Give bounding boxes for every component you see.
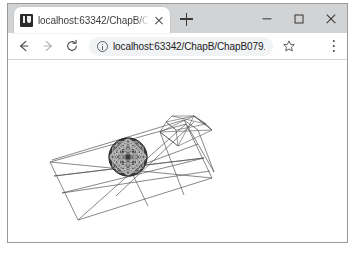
browser-window: localhost:63342/ChapB/ChapB [7, 3, 348, 243]
tab-strip: localhost:63342/ChapB/ChapB [8, 4, 347, 33]
forward-arrow-icon [41, 39, 56, 54]
webgl-canvas[interactable] [8, 60, 347, 242]
maximize-icon [295, 14, 304, 23]
three-dot-menu-icon-dot1 [333, 40, 335, 42]
back-button[interactable] [13, 35, 35, 57]
wireframe-box-structure [160, 116, 212, 146]
browser-toolbar: localhost:63342/ChapB/ChapB079.ht... [8, 33, 347, 60]
star-icon [283, 40, 296, 53]
close-icon[interactable] [151, 13, 166, 28]
page-viewport[interactable] [8, 60, 347, 242]
url-text: localhost:63342/ChapB/ChapB079.ht... [113, 41, 265, 52]
info-circle-icon[interactable] [97, 41, 108, 52]
mesh-sphere [102, 131, 155, 184]
profile-button[interactable] [302, 35, 324, 57]
minimize-button[interactable] [251, 4, 283, 33]
close-window-button[interactable] [315, 4, 347, 33]
3d-wireframe-scene [50, 116, 214, 220]
back-arrow-icon [17, 39, 32, 54]
browser-tab[interactable]: localhost:63342/ChapB/ChapB [14, 7, 170, 33]
toolbar-right-actions [277, 35, 343, 57]
intellij-idea-icon [20, 14, 33, 27]
three-dot-menu-icon-dot2 [333, 45, 335, 47]
screenshot-root: localhost:63342/ChapB/ChapB [0, 0, 355, 255]
maximize-button[interactable] [283, 4, 315, 33]
reload-button[interactable] [61, 35, 83, 57]
window-controls [251, 4, 347, 33]
browser-menu-button[interactable] [325, 36, 343, 56]
address-bar[interactable]: localhost:63342/ChapB/ChapB079.ht... [89, 37, 273, 56]
new-tab-button[interactable] [174, 6, 200, 32]
forward-button[interactable] [37, 35, 59, 57]
three-dot-menu-icon-dot3 [333, 50, 335, 52]
tab-title: localhost:63342/ChapB/ChapB [38, 15, 149, 26]
minimize-icon [263, 18, 272, 19]
reload-icon [65, 39, 80, 54]
